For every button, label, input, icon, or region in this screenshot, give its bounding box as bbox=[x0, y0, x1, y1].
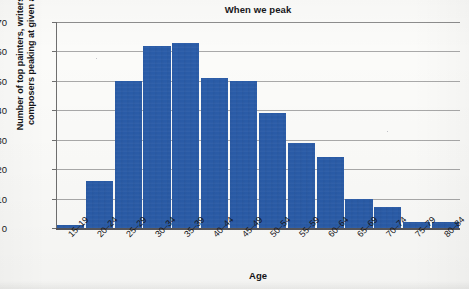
y-axis-title-line-2: composers peaking at given ages bbox=[26, 0, 38, 125]
y-axis-title: Number of top painters, writers, and com… bbox=[13, 0, 39, 153]
y-tick-label: 70 bbox=[0, 17, 7, 28]
chart-page: When we peak Number of top painters, wri… bbox=[0, 0, 469, 289]
chart-title: When we peak bbox=[56, 4, 460, 15]
x-axis-tick-labels: 15–1920–2425–2930–3435–3940–4445–4950–54… bbox=[56, 230, 460, 270]
plot-area bbox=[56, 22, 460, 228]
y-tick-label: 40 bbox=[0, 105, 7, 116]
y-axis-title-line-1: Number of top painters, writers, and bbox=[15, 0, 27, 130]
bar bbox=[172, 43, 199, 228]
y-tick-label: 60 bbox=[0, 46, 7, 57]
bar bbox=[230, 81, 257, 228]
scan-speck bbox=[96, 58, 97, 59]
gridline bbox=[56, 51, 460, 52]
y-tick-label: 20 bbox=[0, 164, 7, 175]
bar bbox=[143, 46, 170, 228]
y-tick-label: 50 bbox=[0, 75, 7, 86]
page-bottom-shadow bbox=[0, 281, 469, 289]
bar bbox=[288, 143, 315, 228]
y-tick-label: 10 bbox=[0, 193, 7, 204]
bar bbox=[201, 78, 228, 228]
x-axis-title: Age bbox=[56, 270, 460, 281]
y-tick-label: 30 bbox=[0, 134, 7, 145]
bar bbox=[115, 81, 142, 228]
y-tick-label: 0 bbox=[0, 223, 7, 234]
plot-top-border bbox=[56, 22, 460, 23]
y-axis-line bbox=[56, 22, 57, 229]
bar bbox=[259, 113, 286, 228]
